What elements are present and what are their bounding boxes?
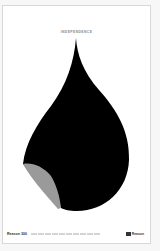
poster-footer: Reason 300 Reason (3, 232, 150, 238)
logo-mark-icon (126, 232, 131, 236)
footer-logo-label: Reason (132, 232, 144, 236)
ink-drop-illustration (3, 6, 152, 245)
poster: INDEPENDENCE Reason 300 Reason (2, 5, 151, 244)
footer-brand-label: Reason 300 (7, 232, 27, 236)
footer-fine-print (31, 233, 101, 235)
footer-logo: Reason (126, 232, 144, 236)
